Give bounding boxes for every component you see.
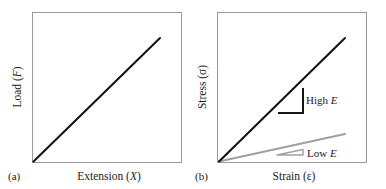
panel-b-y-axis-label-close: ) <box>196 65 209 69</box>
panel-b-high-modulus-label-symbol: E <box>330 94 338 106</box>
panel-a-x-axis-label-close: ) <box>137 170 141 183</box>
panel-b: High E Low E Stress (σ) Strain (ε) (b) <box>193 0 386 189</box>
panel-a-x-axis-label-text: Extension ( <box>77 170 130 183</box>
panel-b-x-axis-label-text: Strain ( <box>273 170 307 183</box>
panel-b-low-modulus-label-symbol: E <box>329 147 337 159</box>
panel-b-y-axis-label-text: Stress ( <box>196 75 209 109</box>
panel-b-x-axis-label-close: ) <box>312 170 316 183</box>
panel-a: Load (F) Extension (X) (a) <box>0 0 193 189</box>
panel-b-x-axis-label: Strain (ε) <box>273 170 316 183</box>
panel-b-low-modulus-label-text: Low <box>307 147 330 159</box>
panel-b-high-modulus-label-text: High <box>306 94 331 106</box>
panel-a-x-axis-label: Extension (X) <box>77 170 141 183</box>
panel-a-y-axis-label: Load (F) <box>11 66 24 107</box>
panel-a-y-axis-label-text: Load ( <box>11 77 24 108</box>
panel-b-high-modulus-label: High E <box>306 94 338 106</box>
stress-strain-figure: Load (F) Extension (X) (a) High E Low E … <box>0 0 386 189</box>
panel-a-letter: (a) <box>8 170 21 183</box>
panel-a-background <box>0 0 193 189</box>
panel-b-y-axis-label: Stress (σ) <box>196 65 209 109</box>
panel-a-y-axis-label-close: ) <box>11 66 24 70</box>
panel-b-letter: (b) <box>195 170 208 183</box>
panel-b-low-modulus-label: Low E <box>307 147 337 159</box>
